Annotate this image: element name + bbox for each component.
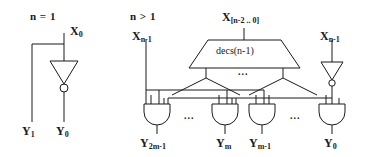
wire-dec-left-to-and-y2m1 (172, 78, 206, 95)
inverter-triangle-recursive (321, 62, 343, 80)
output-label-y0-recursive: Y0 (324, 136, 337, 151)
output-y1-sub: 1 (31, 130, 35, 139)
output-label-ym1: Ym-1 (249, 136, 271, 151)
output-ym-sub: m (225, 142, 232, 151)
output-y2m1-sub: 2m-1 (149, 142, 166, 151)
base-case-condition-label: n = 1 (30, 10, 56, 22)
input-xn1-right-name: X (320, 29, 329, 43)
decoder-output-ellipsis: ... (238, 66, 249, 77)
output-y2m1-name: Y (140, 136, 149, 150)
input-x0-sub: 0 (79, 30, 83, 39)
and-gate-ym1 (249, 104, 275, 134)
and-gate-y2m1 (144, 104, 170, 134)
output-ym-name: Y (216, 136, 225, 150)
inverter-triangle-base (50, 61, 78, 84)
recursive-case-panel (144, 28, 345, 134)
input-xn1-left-sub: n-1 (141, 35, 152, 44)
input-label-xn1-left: Xn-1 (132, 29, 152, 44)
decoder-block-label: decs(n-1) (216, 45, 254, 56)
output-label-y1: Y1 (22, 124, 35, 139)
input-xn1-left-name: X (132, 29, 141, 43)
output-y0-base-name: Y (56, 124, 65, 138)
output-ym1-name: Y (249, 136, 258, 150)
output-label-y0-base: Y0 (56, 124, 69, 139)
and-gate-ym (212, 104, 238, 134)
wire-dec-right-to-and-y0 (283, 78, 317, 95)
base-case-panel (32, 33, 78, 122)
input-label-xn1-right: Xn-1 (320, 29, 340, 44)
gate-row-ellipsis-right: ... (290, 110, 301, 121)
output-y0-base-sub: 0 (65, 130, 69, 139)
recursive-case-condition-label: n > 1 (130, 10, 156, 22)
and-gate-y0 (319, 104, 345, 134)
output-y0-rec-sub: 0 (333, 142, 337, 151)
gate-row-ellipsis-left: ... (184, 110, 195, 121)
output-y1-name: Y (22, 124, 31, 138)
input-label-x0: X0 (70, 24, 83, 39)
output-label-y2m1: Y2m-1 (140, 136, 166, 151)
input-xlow-sub: [n-2 .. 0] (231, 16, 259, 25)
wire-x0-branch-to-y1 (32, 44, 64, 122)
inverter-bubble-base (60, 84, 68, 92)
input-xlow-name: X (222, 10, 231, 24)
output-label-ym: Ym (216, 136, 231, 151)
input-x0-name: X (70, 24, 79, 38)
wire-dec-left-to-and-ym1 (206, 78, 240, 95)
input-xn1-right-sub: n-1 (329, 35, 340, 44)
output-ym1-sub: m-1 (258, 142, 271, 151)
wire-dec-right-to-and-ym (249, 78, 283, 95)
input-label-xlow: X[n-2 .. 0] (222, 10, 259, 25)
output-y0-rec-name: Y (324, 136, 333, 150)
inverter-bubble-recursive (329, 80, 335, 86)
